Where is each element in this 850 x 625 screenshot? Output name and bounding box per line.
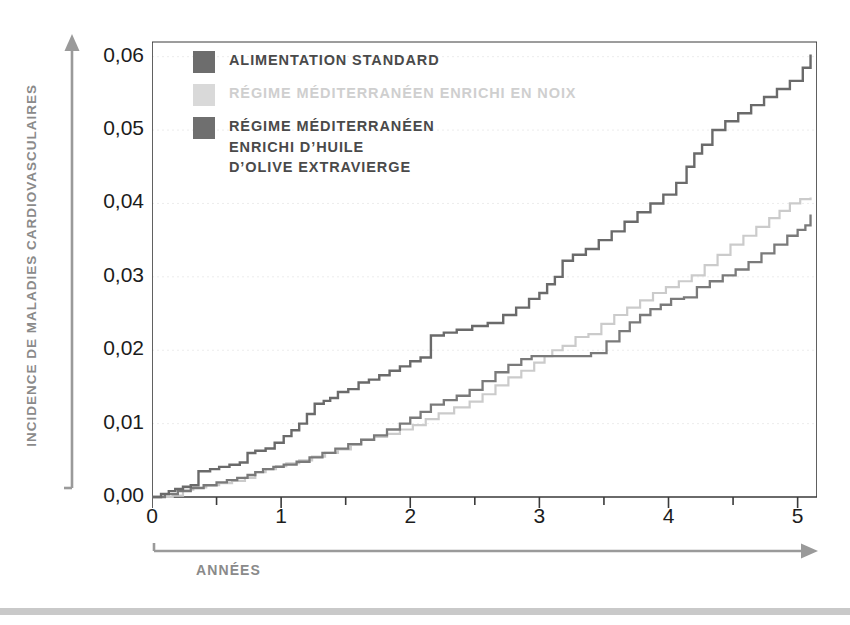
x-tick-label: 1	[275, 505, 287, 526]
figure-container: Incidence de maladies cardiovasculaires …	[0, 0, 850, 625]
x-tick-label: 5	[792, 505, 804, 526]
x-axis-arrow-icon	[148, 540, 820, 562]
legend-item[interactable]: Régime méditerranéen enrichi d’huile d’o…	[193, 116, 623, 178]
y-tick-label: 0,02	[84, 337, 144, 358]
y-axis-title: Incidence de maladies cardiovasculaires	[14, 40, 48, 490]
y-axis-tick-labels: 0,000,010,020,030,040,050,06	[82, 0, 144, 625]
y-axis-title-text: Incidence de maladies cardiovasculaires	[24, 84, 39, 447]
y-tick-label: 0,00	[84, 484, 144, 505]
y-tick-label: 0,05	[84, 117, 144, 138]
series-line-2	[152, 214, 811, 497]
x-tick-label: 0	[146, 505, 158, 526]
legend-item[interactable]: Alimentation standard	[193, 50, 623, 73]
legend-item-label: Régime méditerranéen enrichi d’huile d’o…	[229, 116, 435, 178]
legend-swatch-standard	[193, 51, 215, 73]
legend-swatch-walnuts	[193, 84, 215, 106]
x-axis-tick-labels: 012345	[152, 505, 817, 537]
legend-item-label: Régime méditerranéen enrichi en noix	[229, 83, 576, 104]
y-tick-label: 0,06	[84, 44, 144, 65]
x-tick-label: 3	[534, 505, 546, 526]
y-tick-label: 0,03	[84, 264, 144, 285]
x-tick-label: 2	[404, 505, 416, 526]
chart-legend: Alimentation standardRégime méditerranée…	[193, 50, 623, 188]
bottom-divider	[0, 608, 850, 615]
y-tick-label: 0,01	[84, 411, 144, 432]
y-axis-arrow-icon	[62, 32, 82, 494]
legend-item-label: Alimentation standard	[229, 50, 440, 71]
x-tick-label: 4	[663, 505, 675, 526]
legend-item[interactable]: Régime méditerranéen enrichi en noix	[193, 83, 623, 106]
y-tick-label: 0,04	[84, 190, 144, 211]
legend-swatch-olive-oil	[193, 117, 215, 139]
x-axis-title: Années	[196, 562, 261, 578]
